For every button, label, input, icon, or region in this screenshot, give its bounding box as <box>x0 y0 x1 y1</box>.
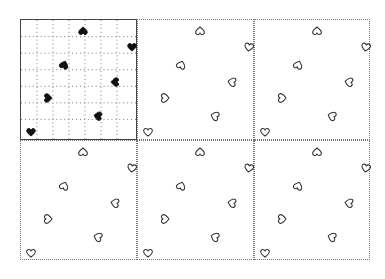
filled-heart-icon <box>127 42 137 52</box>
pattern-panel <box>20 140 137 260</box>
outline-heart-icon <box>277 93 287 103</box>
outline-heart-icon <box>226 197 238 209</box>
outline-heart-icon <box>175 59 188 72</box>
outline-heart-icon <box>43 214 53 224</box>
pattern-panel <box>254 19 370 140</box>
outline-heart-icon <box>326 231 339 244</box>
outline-heart-icon <box>226 76 238 88</box>
outline-heart-icon <box>143 127 153 137</box>
outline-heart-icon <box>277 214 287 224</box>
outline-heart-icon <box>360 41 372 53</box>
outline-heart-icon <box>143 248 153 258</box>
outline-heart-icon <box>175 180 188 193</box>
outline-heart-icon <box>78 147 88 157</box>
outline-heart-icon <box>343 76 355 88</box>
outline-heart-icon <box>312 147 322 157</box>
filled-heart-icon <box>26 127 36 137</box>
outline-heart-icon <box>292 180 305 193</box>
pattern-panel <box>137 140 254 260</box>
outline-heart-icon <box>292 59 305 72</box>
outline-heart-icon <box>92 231 105 244</box>
outline-heart-icon <box>343 197 355 209</box>
outline-heart-icon <box>58 180 71 193</box>
grid-panel <box>20 19 137 140</box>
filled-heart-icon <box>92 110 104 122</box>
outline-heart-icon <box>195 26 205 36</box>
pattern-panel <box>137 19 254 140</box>
outline-heart-icon <box>209 231 222 244</box>
outline-heart-icon <box>260 127 270 137</box>
outline-heart-icon <box>209 110 222 123</box>
outline-heart-icon <box>109 197 121 209</box>
filled-heart-icon <box>78 26 88 36</box>
outline-heart-icon <box>26 248 36 258</box>
filled-heart-icon <box>110 77 120 87</box>
outline-heart-icon <box>260 248 270 258</box>
filled-heart-icon <box>43 93 53 103</box>
outline-heart-icon <box>360 162 372 174</box>
pattern-panel <box>254 140 370 260</box>
outline-heart-icon <box>160 214 170 224</box>
outline-heart-icon <box>312 26 322 36</box>
outline-heart-icon <box>326 110 339 123</box>
outline-heart-icon <box>160 93 170 103</box>
outline-heart-icon <box>195 147 205 157</box>
